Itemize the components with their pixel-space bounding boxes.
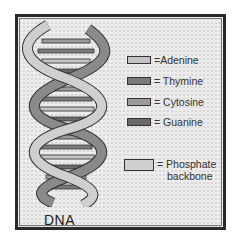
legend-item-thymine: = Thymine (127, 75, 203, 87)
legend-label-adenine: =Adenine (154, 54, 199, 66)
legend-item-guanine: = Guanine (127, 116, 203, 128)
diagram-frame: =Adenine = Thymine = Cytosine = Guanine … (15, 14, 226, 230)
legend-label-thymine: = Thymine (154, 75, 203, 87)
dna-title-label: DNA (44, 212, 75, 228)
figure-caption-cropped (40, 236, 200, 243)
legend-label-phosphate-backbone: = Phosphate backbone (157, 158, 216, 182)
phosphate-backbone-swatch-icon (124, 159, 154, 171)
legend-label-guanine: = Guanine (154, 116, 203, 128)
legend-label-cytosine: = Cytosine (154, 96, 204, 108)
guanine-swatch-icon (127, 118, 151, 126)
legend-item-cytosine: = Cytosine (127, 96, 204, 108)
thymine-swatch-icon (127, 77, 151, 85)
legend: =Adenine = Thymine = Cytosine = Guanine … (18, 17, 223, 227)
legend-item-adenine: =Adenine (127, 54, 199, 66)
cytosine-swatch-icon (127, 98, 151, 106)
phosphate-label-line1: = Phosphate (157, 158, 216, 170)
legend-item-phosphate-backbone: = Phosphate backbone (124, 158, 216, 182)
phosphate-label-line2: backbone (157, 170, 213, 182)
adenine-swatch-icon (127, 56, 151, 64)
